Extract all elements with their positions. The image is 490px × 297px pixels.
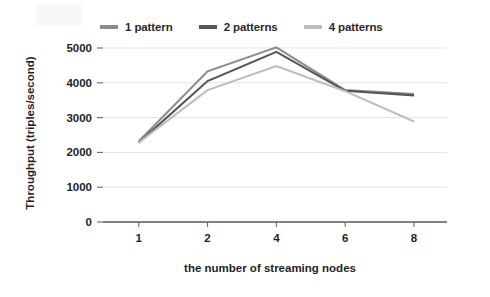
x-tick-label: 2 [204, 232, 210, 244]
gridlines [103, 48, 447, 187]
y-axis-title: Throughput (triples/second) [24, 56, 36, 209]
x-tick-label: 6 [342, 232, 348, 244]
x-tick-label: 8 [411, 232, 418, 244]
y-tick-label: 3000 [66, 112, 92, 124]
y-tick-label: 0 [86, 216, 92, 228]
y-tick-label: 5000 [66, 42, 92, 54]
throughput-line-chart: 1 pattern 2 patterns 4 patterns 01000200… [0, 0, 490, 297]
y-tick-label: 1000 [66, 181, 92, 193]
plot-svg: 010002000300040005000 12468 the number o… [0, 0, 490, 297]
x-tick-label: 4 [273, 232, 280, 244]
y-tick-label: 2000 [66, 146, 92, 158]
x-axis-ticks: 12468 [136, 222, 418, 244]
x-axis-title: the number of streaming nodes [184, 262, 356, 274]
plot-area: 010002000300040005000 12468 the number o… [0, 0, 490, 297]
data-series [139, 47, 414, 142]
y-axis-ticks: 010002000300040005000 [66, 42, 103, 228]
x-tick-label: 1 [136, 232, 143, 244]
series-line-1-pattern [139, 47, 414, 141]
y-tick-label: 4000 [66, 77, 92, 89]
